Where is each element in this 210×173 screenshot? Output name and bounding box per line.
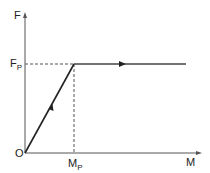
y-axis-label: F — [14, 10, 21, 21]
x-axis-arrow-icon — [196, 151, 202, 155]
y-axis-arrow-icon — [23, 12, 27, 18]
diagram-canvas — [0, 0, 210, 173]
plateau-direction-arrow-icon — [119, 61, 126, 67]
fp-label-sub: P — [17, 63, 22, 72]
origin-label: O — [15, 148, 24, 159]
mp-label-main: M — [68, 157, 77, 169]
mp-label: MP — [68, 158, 83, 169]
x-axis-label: M — [186, 157, 195, 168]
fp-label: FP — [10, 58, 22, 69]
mp-label-sub: P — [77, 163, 82, 172]
fp-label-main: F — [10, 57, 17, 69]
